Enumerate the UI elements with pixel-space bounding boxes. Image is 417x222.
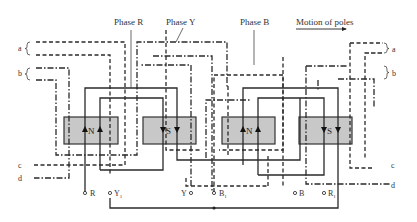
winding-diagram: N S N S Phase R Phase Y Phase B Motion o… [0, 0, 417, 222]
terminal-r1-label: R1 [328, 189, 336, 199]
phase-y-winding [34, 28, 390, 192]
left-label-a: a [18, 44, 22, 53]
terminal-y-icon [189, 191, 192, 194]
terminal-b-icon [293, 191, 296, 194]
phase-b-winding [34, 30, 383, 192]
left-brace-b-icon [25, 68, 30, 80]
terminal-r-label: R [90, 189, 96, 198]
phase-y-leader [176, 28, 183, 42]
pole-label-n1: N [88, 126, 95, 136]
terminal-b1-icon [212, 191, 215, 194]
terminal-r1-icon [322, 191, 325, 194]
terminal-y1-icon [108, 191, 111, 194]
phase-r-label: Phase R [114, 17, 143, 27]
right-label-b: b [392, 69, 396, 78]
terminal-y1-label: Y1 [114, 189, 123, 199]
motion-label: Motion of poles [296, 17, 354, 27]
right-brace-a-icon [384, 43, 389, 53]
terminal-b-label: B [299, 189, 304, 198]
terminal-b1-label: B1 [219, 189, 227, 199]
left-label-d: d [18, 174, 22, 183]
right-label-d: d [391, 181, 395, 190]
left-label-c: c [18, 161, 22, 170]
right-label-a: a [392, 45, 396, 54]
phase-y-label: Phase Y [166, 17, 196, 27]
pole-label-s1: S [166, 126, 171, 136]
pole-s2 [299, 117, 352, 144]
left-label-b: b [18, 69, 22, 78]
left-brace-a-icon [25, 42, 30, 55]
right-brace-b-icon [384, 66, 389, 79]
junction-dot-icon [212, 206, 215, 209]
terminal-y-label: Y [181, 189, 187, 198]
pole-label-s2: S [327, 126, 332, 136]
right-label-c: c [391, 161, 395, 170]
terminal-r-icon [83, 191, 86, 194]
phase-b-label: Phase B [240, 17, 269, 27]
pole-label-n2: N [246, 126, 253, 136]
